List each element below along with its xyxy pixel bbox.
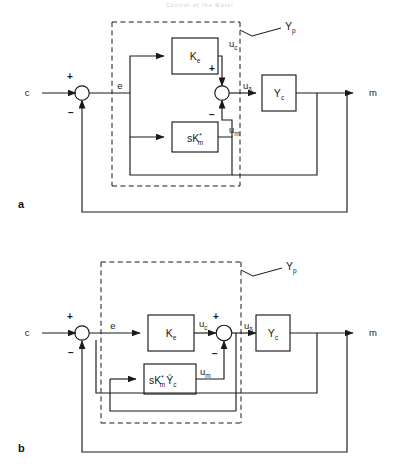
panel-b-yp-boundary bbox=[101, 262, 241, 423]
panel-a-gain-block-label: Ke bbox=[190, 50, 201, 64]
panel-b-gain-block-label: Ke bbox=[166, 327, 177, 341]
panel-b-um-label: um bbox=[200, 366, 211, 379]
panel-a-gain-out bbox=[218, 56, 222, 86]
panel-a-inner-feedback bbox=[232, 93, 317, 175]
panel-b-sum2-minus: − bbox=[212, 348, 218, 359]
panel-a-branch-to-gain bbox=[130, 56, 164, 93]
panel-b-text: c + − e Ke sK*mŶc uc um + − uδ Yc m Yp bbox=[25, 260, 377, 388]
panel-a-error-label: e bbox=[117, 80, 122, 91]
panel-a-udelta-label: uδ bbox=[243, 80, 252, 93]
panel-b-yp-leader bbox=[241, 268, 282, 276]
panel-a-sum-minus: − bbox=[68, 107, 74, 118]
panel-b-udelta-label: uδ bbox=[244, 320, 253, 333]
panel-a-sum2-plus: + bbox=[209, 63, 215, 74]
panel-a-yp-label: Yp bbox=[285, 20, 296, 35]
panel-a-caption: a bbox=[18, 198, 24, 210]
panel-a-inner-sum bbox=[215, 86, 229, 100]
panel-b-caption: b bbox=[18, 442, 25, 454]
panel-b-sum-plus: + bbox=[67, 311, 73, 322]
panel-a-sum-plus: + bbox=[67, 71, 73, 82]
panel-b-input-label: c bbox=[25, 327, 30, 338]
panel-a-plant-block-label: Yc bbox=[274, 87, 285, 101]
panel-a-model-loop bbox=[130, 137, 232, 175]
panel-a-branch-to-model bbox=[130, 93, 164, 137]
panel-a-input-label: c bbox=[25, 87, 30, 98]
block-diagram-figure: c + − e Ke sK*m uc um + − uδ Yc m Yp c + bbox=[0, 0, 400, 467]
panel-a-uc-label: uc bbox=[229, 38, 238, 51]
panel-b-output-label: m bbox=[369, 327, 377, 338]
panel-b-mid-feedback bbox=[96, 333, 317, 393]
panel-b-error-sum bbox=[75, 326, 89, 340]
panel-b-sum-minus: − bbox=[68, 347, 74, 358]
panel-a-error-sum bbox=[75, 86, 89, 100]
panel-a-yp-leader bbox=[240, 28, 281, 36]
panel-b-inner-sum bbox=[216, 325, 232, 341]
panel-b-model-block-label: sK*mŶc bbox=[149, 374, 177, 388]
panel-b-sum2-plus: + bbox=[213, 311, 219, 322]
panel-a-um-label: um bbox=[229, 124, 240, 137]
panel-a-yp-boundary bbox=[112, 22, 240, 186]
panel-b-plant-block-label: Yc bbox=[268, 327, 279, 341]
panel-b-yp-label: Yp bbox=[286, 260, 297, 275]
panel-a-output-label: m bbox=[369, 87, 377, 98]
panel-a-sum2-minus: − bbox=[209, 109, 215, 120]
panel-a-text: c + − e Ke sK*m uc um + − uδ Yc m Yp bbox=[25, 20, 377, 146]
panel-b-error-label: e bbox=[110, 320, 115, 331]
panel-b-uc-label: uc bbox=[199, 318, 208, 331]
panel-a-model-block-label: sK*m bbox=[187, 132, 203, 146]
